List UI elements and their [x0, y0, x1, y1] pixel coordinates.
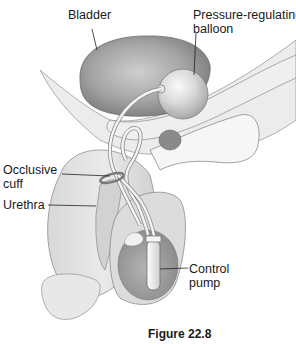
glans — [42, 274, 101, 320]
cuff-label: Occlusive cuff — [3, 163, 57, 191]
figure-caption: Figure 22.8 — [148, 327, 211, 341]
bladder-leader — [92, 29, 97, 50]
control-pump — [147, 240, 160, 290]
pump-label: Control pump — [189, 262, 229, 290]
anatomical-illustration: Bladder Pressure-regulating balloon Occl… — [0, 0, 296, 344]
prostate-shape — [159, 130, 181, 150]
urethra-label: Urethra — [3, 198, 45, 212]
pump-cap — [146, 236, 161, 242]
balloon-label: Pressure-regulating balloon — [193, 8, 296, 36]
balloon-shape — [158, 69, 208, 119]
bladder-label: Bladder — [68, 8, 111, 22]
